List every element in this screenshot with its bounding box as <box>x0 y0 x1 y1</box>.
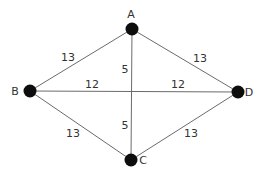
graph-diagram: 13131313121255ABCD <box>0 0 265 178</box>
node-d <box>232 86 245 99</box>
edge-c-d <box>131 92 238 160</box>
edge-weight-label-b-d: 12 <box>171 78 185 91</box>
edge-weight-label-b-d: 12 <box>85 78 99 91</box>
node-a <box>126 23 139 36</box>
edge-weight-label-a-c: 5 <box>122 63 129 76</box>
node-label-c: C <box>139 154 147 167</box>
edge-b-d <box>30 91 238 92</box>
edge-weight-label-a-c: 5 <box>122 119 129 132</box>
edge-weight-label-b-c: 13 <box>66 127 80 140</box>
node-label-a: A <box>127 8 135 21</box>
node-b <box>24 85 37 98</box>
edge-a-c <box>131 29 132 160</box>
edge-a-d <box>132 29 238 92</box>
node-c <box>125 154 138 167</box>
edge-weight-label-a-d: 13 <box>193 52 207 65</box>
node-label-d: D <box>245 86 253 99</box>
node-label-b: B <box>11 85 19 98</box>
edge-a-b <box>30 29 132 91</box>
edge-b-c <box>30 91 131 160</box>
edge-weight-label-a-b: 13 <box>61 51 75 64</box>
edge-weight-label-c-d: 13 <box>184 127 198 140</box>
